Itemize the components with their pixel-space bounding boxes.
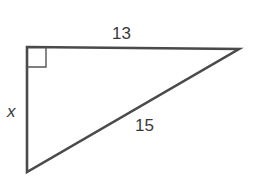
top-side-label: 13 [112, 24, 131, 43]
hypotenuse-label: 15 [135, 116, 154, 135]
right-angle-marker [27, 47, 46, 67]
left-side-label: x [6, 102, 16, 121]
right-triangle [27, 47, 239, 172]
triangle-diagram: 13 x 15 [0, 0, 255, 183]
